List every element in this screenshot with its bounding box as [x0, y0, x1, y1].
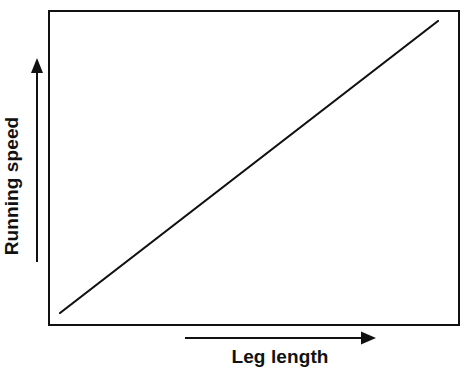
y-axis-label-text: Running speed — [1, 117, 23, 256]
figure-container: Running speed Leg length — [0, 0, 470, 372]
plot-frame — [48, 10, 460, 326]
x-axis-label: Leg length — [185, 346, 375, 368]
y-axis-label: Running speed — [0, 0, 40, 372]
arrow-right-icon — [185, 332, 376, 345]
